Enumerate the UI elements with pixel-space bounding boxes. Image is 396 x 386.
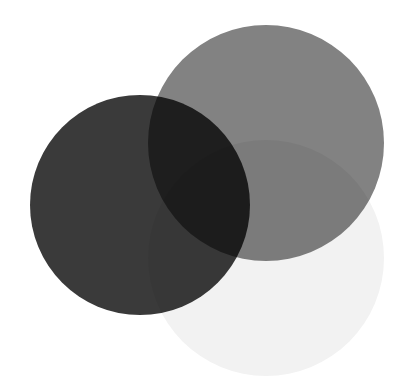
venn-circle-set-a-dark[interactable]: [30, 95, 250, 315]
venn-diagram-svg: [0, 0, 396, 386]
venn-diagram-canvas: [0, 0, 396, 386]
